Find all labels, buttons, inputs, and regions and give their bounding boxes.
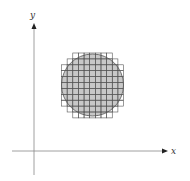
x-axis-label: x [171, 146, 176, 156]
grid-cell [73, 112, 79, 118]
grid-cell [107, 112, 113, 118]
x-axis-arrow-icon [162, 149, 168, 154]
y-axis-arrow-icon [32, 23, 37, 29]
y-axis-label: y [29, 10, 36, 20]
diagram-canvas: x y [0, 0, 190, 181]
disk-region [62, 54, 124, 116]
